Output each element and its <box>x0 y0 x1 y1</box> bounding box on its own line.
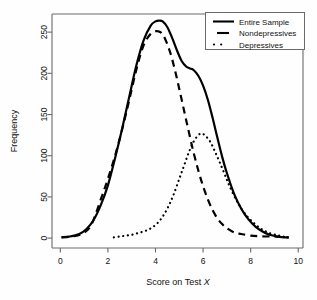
series-line-entire-sample <box>62 21 289 238</box>
y-axis-tick-labels: 050100150200250 <box>39 25 49 241</box>
x-axis-tick-labels: 0246810 <box>58 256 303 266</box>
x-tick-label: 8 <box>248 256 253 266</box>
legend-label: Nondepressives <box>239 29 296 38</box>
y-axis-ticks <box>48 32 53 238</box>
x-tick-label: 4 <box>153 256 158 266</box>
y-tick-label: 250 <box>39 25 49 39</box>
chart-figure: 050100150200250 0246810 Score on Test X … <box>0 0 317 300</box>
x-axis-title: Score on Test X <box>146 277 210 287</box>
x-tick-label: 6 <box>201 256 206 266</box>
chart-canvas: 050100150200250 0246810 Score on Test X … <box>0 0 317 300</box>
series-line-nondepressives <box>62 31 289 237</box>
y-tick-label: 50 <box>39 192 49 202</box>
y-axis-title: Frequency <box>9 109 19 152</box>
series-line-depressives <box>114 133 286 237</box>
y-tick-label: 0 <box>39 235 49 240</box>
x-axis-title-variable: X <box>203 277 211 287</box>
legend-label: Depressives <box>239 41 283 50</box>
data-series-group <box>62 21 289 238</box>
x-axis-title-text: Score on Test <box>146 277 203 287</box>
y-tick-label: 150 <box>39 107 49 121</box>
y-tick-label: 200 <box>39 66 49 80</box>
x-tick-label: 0 <box>58 256 63 266</box>
chart-legend: Entire SampleNondepressivesDepressives <box>206 13 305 50</box>
x-tick-label: 2 <box>106 256 111 266</box>
x-tick-label: 10 <box>294 256 304 266</box>
x-axis-ticks <box>60 248 298 253</box>
y-tick-label: 100 <box>39 148 49 162</box>
legend-label: Entire Sample <box>239 18 290 27</box>
